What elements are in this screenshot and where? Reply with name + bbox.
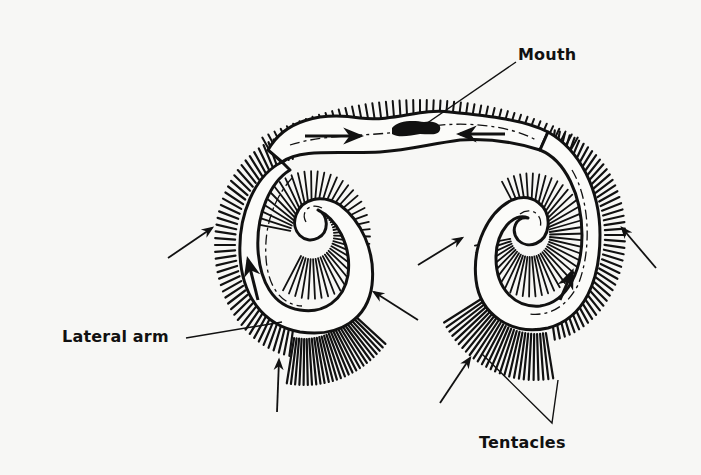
label-lateral-arm: Lateral arm [62, 327, 169, 346]
mouth-slit [392, 121, 440, 136]
lophophore-diagram [0, 0, 701, 475]
lophophore-body [240, 111, 600, 333]
current-arrow-icon [168, 228, 212, 258]
current-arrow-icon [622, 228, 656, 268]
current-arrow-icon [440, 358, 470, 403]
current-arrow-icon [418, 238, 462, 265]
current-arrow-icon [277, 360, 279, 412]
label-mouth: Mouth [518, 45, 576, 64]
label-tentacles: Tentacles [479, 433, 566, 452]
current-arrow-icon [374, 292, 418, 320]
